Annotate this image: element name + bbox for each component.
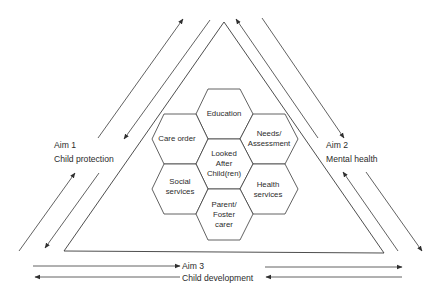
label-line: After [207, 159, 241, 169]
label-line: Child(ren) [207, 169, 241, 179]
aim-2-label: Aim 2 Mental health [326, 139, 378, 165]
aim-1-label: Aim 1 Child protection [54, 139, 114, 165]
hex-label-health-services: Health services [254, 180, 283, 200]
arrow-left-lower-outward [19, 173, 75, 251]
label-line: Social [166, 177, 195, 187]
hex-label-needs-assessment: Needs/ Assessment [248, 129, 290, 149]
aim-3-title: Aim 3 [182, 260, 253, 272]
label-line: Parent/ [211, 200, 236, 210]
label-line: Health [254, 180, 283, 190]
label-line: Assessment [248, 139, 290, 149]
hex-label-social-services: Social services [166, 177, 195, 197]
aim-2-title: Aim 2 [326, 139, 378, 151]
aim-1-title: Aim 1 [54, 139, 114, 151]
label-line: services [254, 190, 283, 200]
label-line: carer [211, 220, 236, 230]
hex-label-looked-after-children: Looked After Child(ren) [207, 149, 241, 179]
label-line: services [166, 187, 195, 197]
label-line: Foster [211, 210, 236, 220]
label-line: Needs/ [248, 129, 290, 139]
aim-3-subtitle: Child development [182, 272, 253, 284]
hex-label-education: Education [207, 109, 242, 119]
aim-3-label: Aim 3 Child development [182, 260, 253, 284]
hex-label-parent-foster-carer: Parent/ Foster carer [211, 200, 236, 230]
label-line: Care order [158, 134, 195, 144]
arrow-left-lower-inward [45, 173, 99, 248]
aim-1-subtitle: Child protection [54, 153, 114, 165]
aim-2-subtitle: Mental health [326, 153, 378, 165]
hex-label-care-order: Care order [158, 134, 195, 144]
label-line: Education [207, 109, 242, 119]
label-line: Looked [207, 149, 241, 159]
arrow-right-lower-outward [343, 172, 398, 251]
